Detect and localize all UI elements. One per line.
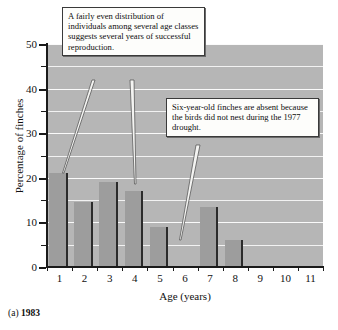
annotation-drought: Six-year-old finches are absent because …	[166, 98, 319, 137]
figure-chart-finch-age-distribution-1983: 01020304050 1234567891011 Percentage of …	[0, 0, 338, 330]
annotation-even-distribution: A fairly even distribution of individual…	[62, 7, 205, 56]
